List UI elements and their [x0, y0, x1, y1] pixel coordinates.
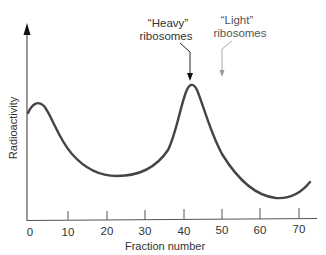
- x-tick-labels: 0 10 20 30 40 50 60 70: [27, 223, 306, 238]
- x-axis: [27, 208, 317, 221]
- light-label-line1: “Light”: [221, 14, 254, 26]
- y-axis-arrow-icon: [24, 23, 31, 35]
- x-tick-label: 30: [139, 225, 152, 237]
- y-axis: [24, 23, 31, 221]
- heavy-ribosomes-annotation: “Heavy” ribosomes: [139, 17, 193, 81]
- x-tick-label: 20: [101, 225, 114, 237]
- x-tick-label: 0: [27, 226, 33, 238]
- y-axis-title: Radioactivity: [7, 96, 19, 159]
- light-ribosomes-annotation: “Light” ribosomes: [213, 14, 266, 77]
- x-tick-label: 10: [62, 226, 75, 238]
- radioactivity-chart: 0 10 20 30 40 50 60 70 Fraction number R…: [0, 0, 326, 255]
- x-tick-label: 70: [293, 223, 306, 235]
- heavy-arrow-icon: [187, 73, 193, 81]
- light-arrow-icon: [220, 70, 225, 77]
- x-tick-label: 60: [254, 224, 267, 236]
- x-tick-label: 50: [216, 224, 229, 236]
- heavy-label-line1: “Heavy”: [148, 17, 188, 29]
- x-axis-title: Fraction number: [125, 240, 205, 252]
- x-tick-label: 40: [178, 225, 191, 237]
- light-label-line2: ribosomes: [213, 27, 266, 39]
- radioactivity-curve: [28, 85, 310, 198]
- heavy-label-line2: ribosomes: [139, 30, 192, 42]
